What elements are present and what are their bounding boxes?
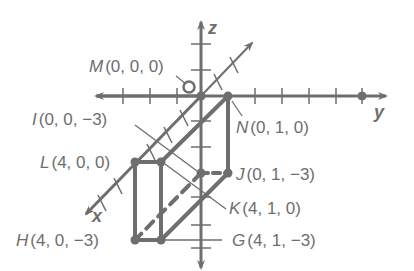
label-coords-H: (4, 0, −3): [30, 231, 99, 250]
svg-text:G(4, 1, −3): G(4, 1, −3): [232, 231, 316, 250]
label-letter-N: N: [236, 118, 249, 137]
leader-N: [232, 101, 242, 116]
label-letter-I: I: [32, 110, 37, 129]
y-axis-point: [358, 92, 366, 100]
3d-coordinate-diagram: z y x M(0, 0, 0) N(0, 1, 0) I(0, 0, −3) …: [0, 0, 414, 271]
label-coords-J: (0, 1, −3): [247, 165, 316, 184]
label-coords-K: (4, 1, 0): [242, 199, 301, 218]
point-label-H: H(4, 0, −3): [16, 231, 99, 250]
vertex-H: [131, 236, 140, 245]
label-coords-L: (4, 0, 0): [51, 153, 110, 172]
vertex-K: [157, 158, 166, 167]
x-axis-ticks: [98, 57, 238, 211]
vertex-L: [131, 158, 140, 167]
point-label-N: N(0, 1, 0): [236, 118, 309, 137]
svg-text:I(0, 0, −3): I(0, 0, −3): [32, 110, 107, 129]
svg-text:H(4, 0, −3): H(4, 0, −3): [16, 231, 99, 250]
label-letter-L: L: [40, 153, 49, 172]
point-label-L: L(4, 0, 0): [40, 153, 110, 172]
point-label-G: G(4, 1, −3): [232, 231, 316, 250]
label-coords-M: (0, 0, 0): [105, 57, 164, 76]
point-label-J: J(0, 1, −3): [235, 165, 315, 184]
vertex-I: [197, 169, 206, 178]
label-coords-N: (0, 1, 0): [250, 118, 309, 137]
point-label-I: I(0, 0, −3): [32, 110, 107, 129]
label-letter-K: K: [229, 199, 241, 218]
svg-text:K(4, 1, 0): K(4, 1, 0): [229, 199, 301, 218]
label-coords-G: (4, 1, −3): [247, 231, 316, 250]
point-label-K: K(4, 1, 0): [229, 199, 301, 218]
edge-JG: [161, 173, 228, 240]
leader-M: [176, 76, 186, 84]
svg-text:L(4, 0, 0): L(4, 0, 0): [40, 153, 110, 172]
vertex-M: [197, 92, 206, 101]
point-label-M: M(0, 0, 0): [89, 57, 164, 76]
svg-text:N(0, 1, 0): N(0, 1, 0): [236, 118, 309, 137]
svg-text:M(0, 0, 0): M(0, 0, 0): [89, 57, 164, 76]
vertex-J: [224, 169, 233, 178]
x-axis-label: x: [91, 206, 103, 226]
vertex-G: [157, 236, 166, 245]
svg-text:J(0, 1, −3): J(0, 1, −3): [235, 165, 315, 184]
z-axis-label: z: [207, 18, 217, 38]
vertex-N: [224, 92, 233, 101]
label-letter-G: G: [232, 231, 245, 250]
label-letter-M: M: [89, 57, 104, 76]
label-letter-H: H: [16, 231, 29, 250]
label-letter-J: J: [235, 165, 245, 184]
label-coords-I: (0, 0, −3): [39, 110, 108, 129]
y-axis-label: y: [373, 102, 385, 122]
